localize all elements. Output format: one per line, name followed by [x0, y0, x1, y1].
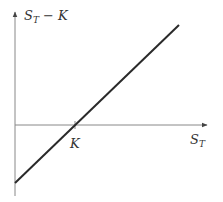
payoff-line — [15, 25, 179, 183]
payoff-diagram: ST − K K ST — [0, 0, 223, 202]
y-axis-label: ST − K — [24, 8, 69, 25]
strike-label: K — [69, 136, 81, 151]
x-axis-label: ST — [190, 132, 206, 149]
